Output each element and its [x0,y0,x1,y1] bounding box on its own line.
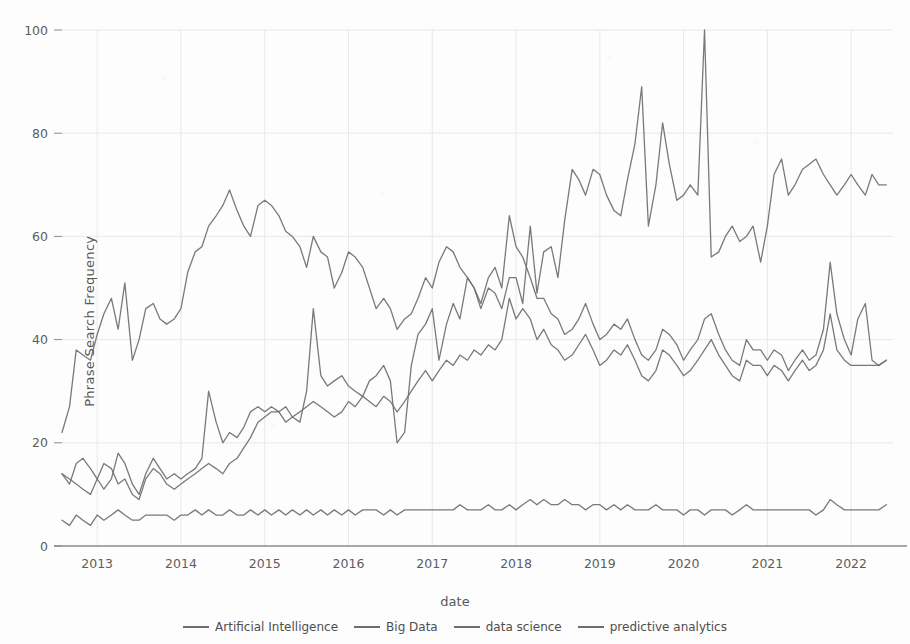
legend-label: data science [486,620,562,634]
x-tick-label: 2019 [584,556,616,571]
y-axis-title: Phrase Search Frequency [82,236,97,407]
series-line-artificial-intelligence [62,30,886,494]
y-tick-label: 60 [32,229,48,244]
x-tick-label: 2021 [751,556,783,571]
series-lines [62,30,886,525]
legend-swatch-icon [578,626,604,628]
x-tick-labels: 2013201420152016201720182019202020212022 [81,556,867,571]
x-tick-label: 2015 [249,556,281,571]
series-line-big-data [62,190,886,433]
y-tick-label: 0 [40,539,48,554]
legend-item-predictive-analytics[interactable]: predictive analytics [578,620,727,634]
x-tick-label: 2018 [500,556,532,571]
legend-item-data-science[interactable]: data science [454,620,562,634]
legend-label: Artificial Intelligence [215,620,338,634]
legend-item-big-data[interactable]: Big Data [354,620,438,634]
x-tick-label: 2022 [835,556,867,571]
x-tick-label: 2013 [81,556,113,571]
x-tick-label: 2020 [668,556,700,571]
legend-swatch-icon [183,626,209,628]
legend-swatch-icon [454,626,480,628]
y-tick-label: 80 [32,126,48,141]
y-tick-label: 20 [32,435,48,450]
x-tick-label: 2017 [416,556,448,571]
x-tick-label: 2014 [165,556,197,571]
gridlines [62,30,893,546]
legend-label: Big Data [386,620,438,634]
x-tick-label: 2016 [333,556,365,571]
x-axis-title: date [0,594,910,609]
legend-item-artificial-intelligence[interactable]: Artificial Intelligence [183,620,338,634]
y-tick-labels: 020406080100 [24,23,62,554]
y-tick-label: 100 [24,23,48,38]
chart-legend: Artificial IntelligenceBig Datadata scie… [0,620,910,634]
legend-label: predictive analytics [610,620,727,634]
chart-container: 020406080100 201320142015201620172018201… [0,0,910,644]
series-line-data-science [62,298,886,499]
legend-swatch-icon [354,626,380,628]
series-line-predictive-analytics [62,500,886,526]
y-tick-label: 40 [32,332,48,347]
line-chart-plot: 020406080100 201320142015201620172018201… [0,0,910,600]
